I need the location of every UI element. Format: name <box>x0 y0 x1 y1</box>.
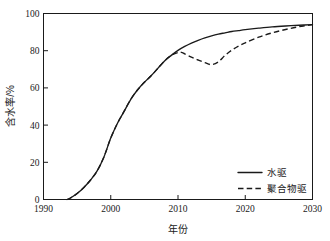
y-tick-label: 60 <box>30 83 40 93</box>
legend-label-polymer-flooding: 聚合物驱 <box>267 183 307 194</box>
x-axis: 19902000201020202030 <box>34 195 322 214</box>
y-axis-title: 含水率/% <box>4 85 16 127</box>
water-cut-line-chart: 020406080100 19902000201020202030 年份 含水率… <box>0 0 330 241</box>
x-tick-label: 2030 <box>303 204 322 214</box>
x-tick-label: 1990 <box>34 204 53 214</box>
legend-label-water-flooding: 水驱 <box>267 167 287 178</box>
y-tick-label: 100 <box>25 9 40 19</box>
y-tick-label: 20 <box>30 158 40 168</box>
chart-legend: 水驱 聚合物驱 <box>238 167 307 194</box>
chart-figure: 020406080100 19902000201020202030 年份 含水率… <box>0 0 330 241</box>
x-tick-label: 2010 <box>169 204 188 214</box>
y-axis: 020406080100 <box>25 9 48 205</box>
x-tick-label: 2020 <box>236 204 255 214</box>
y-tick-label: 80 <box>30 46 40 56</box>
y-tick-label: 40 <box>30 121 40 131</box>
x-axis-title: 年份 <box>168 223 188 235</box>
x-tick-label: 2000 <box>101 204 120 214</box>
